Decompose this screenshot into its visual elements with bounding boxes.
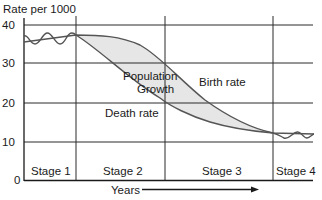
demographic-transition-chart: Rate per 1000 40 30 20 10 0 Population G… bbox=[0, 0, 322, 200]
y-tick-10: 10 bbox=[2, 136, 15, 148]
population-growth-label-line1: Population bbox=[123, 70, 177, 82]
years-arrow-head-icon bbox=[251, 187, 259, 193]
y-tick-0: 0 bbox=[14, 174, 20, 186]
death-rate-label: Death rate bbox=[105, 107, 159, 119]
y-tick-40: 40 bbox=[2, 19, 15, 31]
stage1-label: Stage 1 bbox=[31, 165, 71, 177]
birth-rate-label: Birth rate bbox=[199, 76, 246, 88]
population-growth-label-line2: Growth bbox=[137, 83, 174, 95]
y-tick-30: 30 bbox=[2, 57, 15, 69]
x-axis-title: Years bbox=[111, 184, 140, 196]
stage4-label: Stage 4 bbox=[276, 165, 316, 177]
y-tick-20: 20 bbox=[2, 97, 15, 109]
y-axis-title: Rate per 1000 bbox=[3, 3, 76, 15]
stage3-label: Stage 3 bbox=[202, 165, 242, 177]
stage2-label: Stage 2 bbox=[103, 165, 143, 177]
